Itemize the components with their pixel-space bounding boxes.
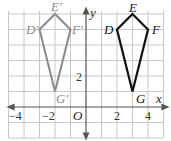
vertex-label-f-prime: F′ <box>71 22 83 37</box>
x-axis-label: x <box>155 91 162 106</box>
vertex-label-d-prime: D′ <box>25 22 38 37</box>
vertex-label-e-prime: E′ <box>50 0 62 14</box>
coordinate-plane: y x O −4 −2 2 4 2 E′ D′ F′ G′ E D F G <box>0 0 171 141</box>
x-axis-arrow-right-icon <box>162 105 168 110</box>
vertex-label-e: E <box>128 0 137 15</box>
x-tick-label: −4 <box>9 109 22 123</box>
y-tick-label: 2 <box>76 70 82 84</box>
y-axis-label: y <box>88 5 96 20</box>
vertex-label-g: G <box>136 91 146 106</box>
y-axis-arrow-up-icon <box>84 8 89 14</box>
vertex-label-g-prime: G′ <box>56 91 68 106</box>
origin-label: O <box>73 108 83 123</box>
vertex-label-f: F <box>151 22 161 37</box>
x-tick-label: 4 <box>145 109 151 123</box>
x-tick-label: 2 <box>114 109 120 123</box>
vertex-label-d: D <box>103 22 114 37</box>
x-tick-label: −2 <box>42 109 55 123</box>
